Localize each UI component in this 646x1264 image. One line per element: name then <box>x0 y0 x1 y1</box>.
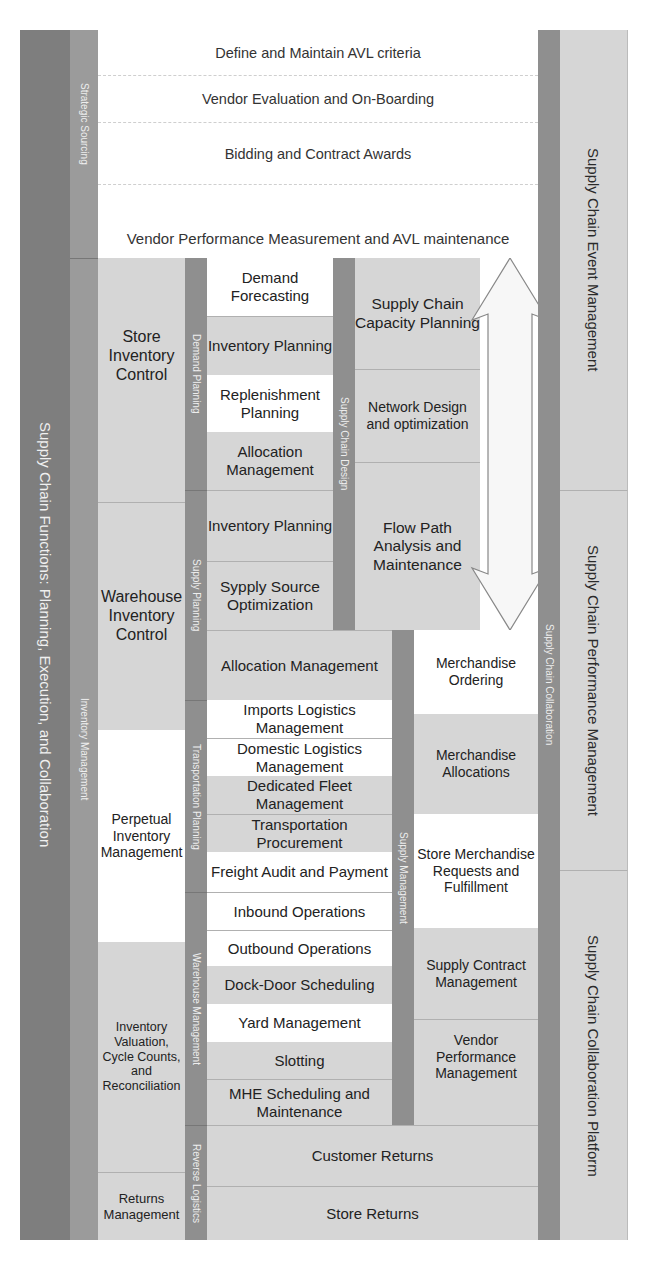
supply-management-item: Supply Contract Management <box>414 928 538 1019</box>
warehouse-item: Slotting <box>207 1042 392 1079</box>
transportation-item: Domestic Logistics Management <box>207 738 392 776</box>
transportation-item: Transportation Procurement <box>207 814 392 852</box>
right-column-collaboration-platform: Supply Chain Collaboration Platform <box>560 870 628 1240</box>
inventory-box: Perpetual Inventory Management <box>98 730 185 942</box>
inventory-box: Warehouse Inventory Control <box>98 502 185 730</box>
ss-row: Define and Maintain AVL criteria <box>98 30 538 76</box>
sc-design-item: Supply Chain Capacity Planning <box>355 258 480 369</box>
strategic-sourcing-bar: Strategic Sourcing <box>70 30 98 258</box>
transportation-item: Dedicated Fleet Management <box>207 776 392 814</box>
transportation-item: Imports Logistics Management <box>207 700 392 738</box>
supply-management-item: Vendor Performance Management <box>414 1019 538 1125</box>
warehouse-management-bar: Warehouse Management <box>185 892 207 1125</box>
demand-planning-item: Replenishment Planning <box>207 375 333 432</box>
demand-planning-item: Allocation Management <box>207 432 333 490</box>
warehouse-item: Dock-Door Scheduling <box>207 966 392 1004</box>
sc-design-item: Network Design and optimization <box>355 369 480 462</box>
reverse-logistics-item: Store Returns <box>207 1186 538 1240</box>
inventory-management-bar: Inventory Management <box>70 258 98 1240</box>
ss-row: Vendor Evaluation and On-Boarding <box>98 76 538 123</box>
demand-planning-item: Demand Forecasting <box>207 258 333 316</box>
inventory-box: Inventory Valuation, Cycle Counts, and R… <box>98 942 185 1172</box>
inventory-box: Returns Management <box>98 1172 185 1240</box>
demand-planning-item: Inventory Planning <box>207 316 333 375</box>
warehouse-item: Inbound Operations <box>207 892 392 930</box>
diagram-title: Supply Chain Functions: Planning, Execut… <box>37 422 54 847</box>
strategic-sourcing-area: Define and Maintain AVL criteria Vendor … <box>98 30 538 258</box>
ss-row: Bidding and Contract Awards <box>98 123 538 185</box>
supply-planning-item: Sypply Source Optimization <box>207 561 333 630</box>
reverse-logistics-bar: Reverse Logistics <box>185 1125 207 1240</box>
transportation-item: Freight Audit and Payment <box>207 852 392 892</box>
warehouse-item: MHE Scheduling and Maintenance <box>207 1079 392 1125</box>
warehouse-item: Outbound Operations <box>207 930 392 966</box>
supply-planning-item: Allocation Management <box>207 630 392 700</box>
supply-management-item: Merchandise Allocations <box>414 714 538 814</box>
supply-management-bar: Supply Management <box>392 630 414 1125</box>
right-column-event-management: Supply Chain Event Management <box>560 30 628 490</box>
sc-design-item: Flow Path Analysis and Maintenance <box>355 462 480 630</box>
title-bar: Supply Chain Functions: Planning, Execut… <box>20 30 70 1240</box>
transportation-planning-bar: Transportation Planning <box>185 700 207 892</box>
supply-management-item: Store Merchandise Requests and Fulfillme… <box>414 814 538 928</box>
supply-management-item: Merchandise Ordering <box>414 630 538 714</box>
supply-chain-design-bar: Supply Chain Design <box>333 258 355 630</box>
warehouse-item: Yard Management <box>207 1004 392 1042</box>
supply-planning-item: Inventory Planning <box>207 490 333 561</box>
inventory-box: Store Inventory Control <box>98 258 185 502</box>
demand-planning-bar: Demand Planning <box>185 258 207 490</box>
reverse-logistics-item: Customer Returns <box>207 1125 538 1186</box>
ss-row: Vendor Performance Measurement and AVL m… <box>98 185 538 261</box>
supply-chain-collaboration-bar: Supply Chain Collaboration <box>538 30 560 1240</box>
supply-planning-bar: Supply Planning <box>185 490 207 700</box>
right-column-performance-management: Supply Chain Performance Management <box>560 490 628 870</box>
